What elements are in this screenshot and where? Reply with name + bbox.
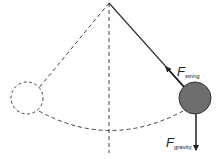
force-string-label: Fstring — [177, 64, 200, 79]
string-left-dashed — [38, 3, 109, 89]
pendulum-diagram: Fstring Fgravity — [0, 0, 224, 159]
bob-ghost — [11, 82, 43, 114]
swing-arc — [39, 111, 183, 131]
force-gravity-label: Fgravity — [166, 135, 192, 150]
bob — [179, 82, 211, 114]
